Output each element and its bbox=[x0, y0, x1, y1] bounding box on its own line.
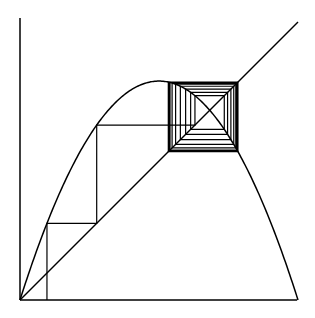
parabola-curve bbox=[20, 81, 298, 300]
diagonal-line bbox=[20, 22, 298, 300]
cobweb-path bbox=[47, 82, 238, 300]
cobweb-diagram bbox=[0, 0, 315, 318]
